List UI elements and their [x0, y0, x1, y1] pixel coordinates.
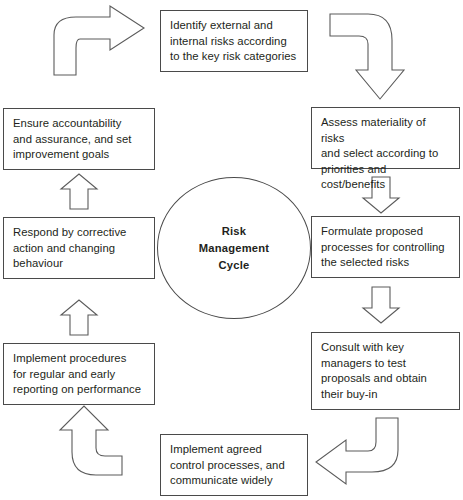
node-assess-materiality: Assess materiality of risks and select a…	[311, 107, 460, 169]
block-arrow-respond-to-ensure	[61, 174, 97, 209]
block-arrow-report-to-respond	[61, 300, 97, 335]
block-arrow-formulate-to-consult	[363, 287, 399, 323]
curved-arrow-identify-to-assess	[330, 14, 404, 99]
node-identify-risks: Identify external and internal risks acc…	[160, 10, 308, 72]
curved-arrow-ensure-to-identify	[54, 6, 144, 75]
curved-arrow-agreed-to-report	[60, 406, 122, 475]
center-circle-label: Risk Management Cycle	[199, 223, 269, 274]
node-implement-agreed-controls: Implement agreed control processes, and …	[160, 434, 308, 496]
node-implement-reporting-procedures: Implement procedures for regular and ear…	[3, 343, 155, 405]
node-ensure-accountability: Ensure accountability and assurance, and…	[3, 108, 155, 170]
curved-arrow-consult-to-agreed	[316, 418, 398, 484]
center-circle: Risk Management Cycle	[157, 177, 311, 319]
node-respond-corrective-action: Respond by corrective action and changin…	[3, 217, 155, 279]
node-consult-managers: Consult with key managers to test propos…	[311, 332, 460, 410]
risk-management-cycle-diagram: Risk Management Cycle Identify external …	[0, 0, 463, 500]
node-formulate-processes: Formulate proposed processes for control…	[311, 216, 460, 278]
